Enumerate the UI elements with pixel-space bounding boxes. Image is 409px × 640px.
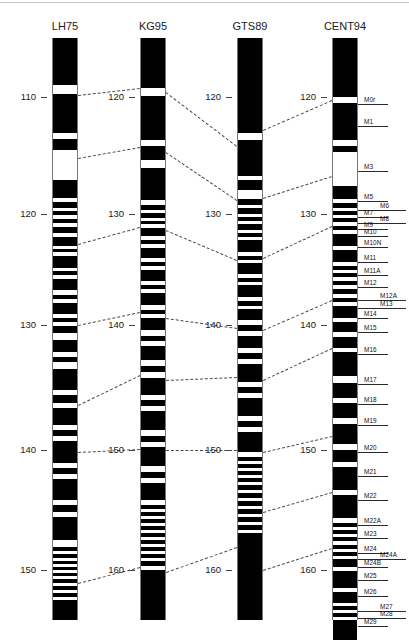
chromosome-band — [53, 237, 77, 246]
chromosome-band — [333, 559, 357, 567]
chromosome-band — [238, 278, 262, 282]
marker-label: M27 — [380, 603, 393, 610]
chromosome-band — [141, 519, 165, 523]
marker-label: M18 — [364, 396, 377, 403]
ideogram-lh75[interactable] — [52, 38, 78, 620]
chromosome-band — [333, 273, 357, 277]
marker-label: M24B — [364, 559, 381, 566]
axis-tick — [321, 450, 327, 451]
axis-label-cent94-120: 120 — [284, 91, 316, 102]
axis-label-lh75-130: 130 — [4, 319, 36, 330]
chromosome-band — [53, 554, 77, 558]
chromosome-band — [238, 309, 262, 320]
chromosome-band — [141, 310, 165, 314]
chromosome-band — [333, 289, 357, 294]
axis-label-cent94-160: 160 — [284, 564, 316, 575]
chromosome-band — [238, 199, 262, 205]
chromosome-band — [141, 378, 165, 395]
chromosome-band — [238, 208, 262, 214]
axis-tick — [41, 97, 47, 98]
chromosome-band — [238, 493, 262, 498]
chromosome-band — [238, 224, 262, 230]
homology-link-line — [78, 375, 140, 406]
chromosome-band — [53, 326, 77, 333]
column-title-lh75: LH75 — [25, 20, 105, 32]
ideogram-gts89[interactable] — [237, 38, 263, 620]
axis-label-lh75-120: 120 — [4, 208, 36, 219]
marker-label: M24A — [380, 551, 397, 558]
chromosome-band — [141, 505, 165, 509]
marker-label: M17 — [364, 376, 377, 383]
chromosome-band — [53, 180, 77, 198]
chromosome-band — [141, 472, 165, 478]
marker-leader-line — [358, 104, 388, 105]
marker-leader-line — [358, 308, 406, 309]
marker-label: M22 — [364, 492, 377, 499]
marker-label: M16 — [364, 346, 377, 353]
marker-leader-line — [358, 404, 388, 405]
marker-leader-line — [358, 384, 388, 385]
axis-label-kg95-140: 140 — [92, 319, 124, 330]
chromosome-band — [141, 240, 165, 244]
marker-label: M23 — [364, 530, 377, 537]
chromosome-band — [53, 249, 77, 252]
chromosome-band — [333, 203, 357, 208]
chromosome-band — [141, 512, 165, 516]
chromosome-band — [238, 432, 262, 452]
chromosome-band — [238, 256, 262, 260]
marker-leader-line — [358, 318, 388, 319]
chromosome-band — [141, 221, 165, 224]
column-title-cent94: CENT94 — [305, 20, 385, 32]
chromosome-band — [238, 180, 262, 190]
axis-tick — [129, 450, 135, 451]
homology-link-line — [78, 147, 140, 159]
chromosome-band — [333, 620, 357, 640]
marker-label: M25 — [364, 572, 377, 579]
chromosome-band — [141, 447, 165, 466]
column-title-kg95: KG95 — [113, 20, 193, 32]
chromosome-band — [333, 266, 357, 270]
marker-label: M11 — [364, 254, 376, 261]
chromosome-band — [238, 517, 262, 522]
chromosome-band — [53, 318, 77, 322]
axis-tick — [226, 450, 232, 451]
homology-link-line — [263, 176, 332, 199]
axis-tick — [41, 570, 47, 571]
chromosome-band — [333, 467, 357, 490]
chromosome-band — [141, 270, 165, 281]
marker-label: M9 — [364, 221, 373, 228]
chromosome-band — [53, 441, 77, 463]
chromosome-band — [141, 228, 165, 236]
axis-tick — [321, 97, 327, 98]
chromosome-band — [141, 554, 165, 558]
marker-label: M26 — [364, 588, 377, 595]
homology-link-line — [263, 100, 332, 131]
axis-label-gts89-130: 130 — [189, 208, 221, 219]
ideogram-cent94[interactable] — [332, 38, 358, 620]
chromosome-band — [141, 366, 165, 372]
chromosome-band — [141, 168, 165, 200]
axis-tick — [321, 214, 327, 215]
axis-tick — [129, 214, 135, 215]
marker-leader-line — [358, 596, 388, 597]
chromosome-band — [333, 352, 357, 376]
chromosome-band — [333, 218, 357, 222]
marker-label: M6 — [380, 202, 389, 209]
chromosome-band — [238, 471, 262, 475]
axis-label-gts89-160: 160 — [189, 564, 221, 575]
marker-label: M22A — [364, 517, 381, 524]
axis-label-cent94-150: 150 — [284, 444, 316, 455]
chromosome-band — [53, 468, 77, 474]
chromosome-band — [53, 408, 77, 425]
chromosome-band — [333, 403, 357, 418]
chromosome-band — [238, 240, 262, 252]
axis-label-gts89-150: 150 — [189, 444, 221, 455]
ideogram-kg95[interactable] — [140, 38, 166, 620]
chromosome-band — [141, 346, 165, 360]
marker-leader-line — [358, 525, 388, 526]
chromosome-band — [141, 213, 165, 218]
chromosome-band — [141, 262, 165, 266]
homology-link-line — [263, 226, 332, 259]
chromosome-band — [53, 271, 77, 275]
chromosome-band — [238, 233, 262, 237]
